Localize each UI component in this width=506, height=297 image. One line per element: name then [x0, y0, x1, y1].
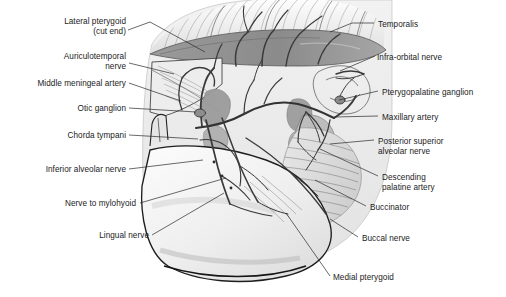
label-buccal-nerve: Buccal nerve: [362, 234, 410, 244]
label-lingual-nerve: Lingual nerve: [6, 231, 149, 241]
label-buccinator: Buccinator: [370, 203, 409, 213]
label-pterygopalatine-ganglion: Pterygopalatine ganglion: [382, 88, 473, 98]
label-medial-pterygoid: Medial pterygoid: [333, 273, 394, 283]
anatomical-figure: Lateral pterygoid (cut end)Auriculotempo…: [0, 0, 506, 297]
label-posterior-superior-alveolar-nerve: Posterior superior alveolar nerve: [378, 137, 444, 156]
label-maxillary-artery: Maxillary artery: [382, 113, 438, 123]
label-temporalis: Temporalis: [378, 20, 418, 30]
label-lateral-pterygoid: Lateral pterygoid (cut end): [10, 17, 126, 36]
label-auriculotemporal-nerve: Auriculotemporal nerve: [6, 52, 126, 71]
label-infra-orbital-nerve: Infra-orbital nerve: [377, 53, 442, 63]
label-nerve-to-mylohyoid: Nerve to mylohyoid: [6, 199, 136, 209]
label-otic-ganglion: Otic ganglion: [6, 104, 126, 114]
label-middle-meningeal-artery: Middle meningeal artery: [6, 79, 126, 89]
label-descending-palatine-artery: Descending palatine artery: [382, 173, 435, 192]
label-inferior-alveolar-nerve: Inferior alveolar nerve: [6, 165, 126, 175]
label-chorda-tympani: Chorda tympani: [6, 131, 126, 141]
